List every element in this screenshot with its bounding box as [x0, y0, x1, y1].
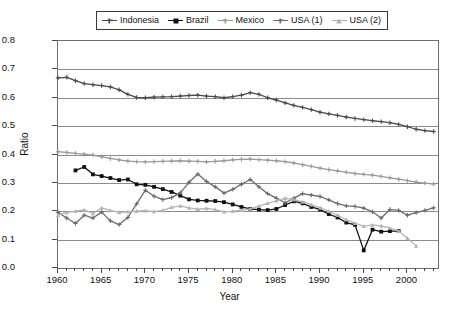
legend-entry-mexico[interactable]: Mexico: [218, 16, 265, 25]
data-point-marker: [222, 200, 226, 204]
data-point-marker: [82, 81, 86, 85]
data-point-marker: [117, 158, 121, 162]
y-axis-tick-label: 0.2: [2, 205, 15, 215]
x-axis-tick-minor: [109, 268, 110, 271]
series-line: [58, 174, 434, 225]
x-axis-tick-minor: [223, 268, 224, 271]
data-point-marker: [423, 181, 427, 185]
x-axis-tick-label: 1980: [221, 275, 242, 285]
data-point-marker: [126, 92, 130, 96]
x-axis-tick-label: 1995: [352, 275, 373, 285]
legend-entry-indonesia[interactable]: Indonesia: [102, 16, 159, 25]
legend-entry-usa-2[interactable]: USA (2): [332, 16, 382, 25]
x-axis-tick-minor: [354, 268, 355, 271]
data-point-marker: [213, 159, 217, 163]
x-axis-tick-minor: [127, 268, 128, 271]
data-point-marker: [300, 105, 304, 109]
x-axis-tick-major: [57, 268, 58, 273]
data-point-marker: [396, 177, 400, 181]
data-point-marker: [388, 176, 392, 180]
x-axis-tick-minor: [337, 268, 338, 271]
data-point-marker: [161, 95, 165, 99]
x-axis-tick-minor: [293, 268, 294, 271]
data-point-marker: [257, 157, 261, 161]
data-point-marker: [196, 93, 200, 97]
data-point-marker: [309, 164, 313, 168]
data-point-marker: [292, 161, 296, 165]
x-axis-tick-minor: [258, 268, 259, 271]
data-point-marker: [274, 159, 278, 163]
data-point-marker: [414, 210, 418, 214]
x-axis-tick-minor: [284, 268, 285, 271]
data-point-marker: [91, 172, 95, 176]
x-axis-tick-minor: [206, 268, 207, 271]
data-point-marker: [178, 159, 182, 163]
y-axis-title: Ratio: [20, 114, 30, 174]
x-axis-tick-minor: [302, 268, 303, 271]
x-axis-tick-minor: [415, 268, 416, 271]
x-axis-tick-label: 2000: [396, 275, 417, 285]
data-point-marker: [431, 206, 435, 210]
data-point-marker: [335, 113, 339, 117]
data-point-marker: [414, 127, 418, 131]
y-axis-tick-label: 0.4: [2, 149, 15, 159]
legend-marker-triangle-icon: [332, 16, 347, 25]
x-axis-tick-minor: [162, 268, 163, 271]
data-point-marker: [65, 75, 69, 79]
data-point-marker: [327, 112, 331, 116]
data-point-marker: [423, 208, 427, 212]
data-point-marker: [292, 103, 296, 107]
series-brazil: [74, 165, 401, 252]
data-point-marker: [379, 119, 383, 123]
data-point-marker: [204, 160, 208, 164]
data-point-marker: [222, 96, 226, 100]
data-point-marker: [196, 199, 200, 203]
series-layer: [58, 41, 438, 268]
data-point-marker: [362, 249, 366, 253]
data-point-marker: [274, 98, 278, 102]
legend-label: Indonesia: [120, 16, 159, 25]
legend-entry-brazil[interactable]: Brazil: [168, 16, 209, 25]
data-point-marker: [283, 101, 287, 105]
y-axis-tick-label: 0.5: [2, 120, 15, 130]
data-point-marker: [152, 159, 156, 163]
data-point-marker: [327, 167, 331, 171]
data-point-marker: [353, 171, 357, 175]
data-point-marker: [257, 208, 261, 212]
data-point-marker: [431, 129, 435, 133]
series-mexico: [56, 149, 436, 186]
data-point-marker: [161, 197, 165, 201]
data-point-marker: [370, 119, 374, 123]
data-point-marker: [135, 182, 139, 186]
x-axis-tick-minor: [74, 268, 75, 271]
data-point-marker: [108, 85, 112, 89]
data-point-marker: [370, 173, 374, 177]
data-point-marker: [309, 193, 313, 197]
data-point-marker: [344, 204, 348, 208]
data-point-marker: [134, 95, 138, 99]
data-point-marker: [143, 183, 147, 187]
data-point-marker: [423, 128, 427, 132]
data-point-marker: [161, 159, 165, 163]
x-axis-tick-minor: [345, 268, 346, 271]
data-point-marker: [100, 174, 104, 178]
series-line: [58, 77, 434, 131]
data-point-marker: [82, 165, 86, 169]
data-point-marker: [187, 197, 191, 201]
data-point-marker: [274, 207, 278, 211]
x-axis-tick-minor: [92, 268, 93, 271]
x-axis-tick-minor: [380, 268, 381, 271]
x-axis-tick-minor: [310, 268, 311, 271]
data-point-marker: [327, 198, 331, 202]
data-point-marker: [353, 116, 357, 120]
data-point-marker: [248, 90, 252, 94]
y-axis-tick-label: 0.6: [2, 92, 15, 102]
data-point-marker: [300, 191, 304, 195]
legend-marker-plus-icon: [273, 16, 288, 25]
x-axis-tick-minor: [179, 268, 180, 271]
data-point-marker: [73, 79, 77, 83]
x-axis-tick-minor: [398, 268, 399, 271]
x-axis-tick-label: 1975: [177, 275, 198, 285]
x-axis-tick-label: 1985: [265, 275, 286, 285]
legend-entry-usa-1[interactable]: USA (1): [273, 16, 323, 25]
